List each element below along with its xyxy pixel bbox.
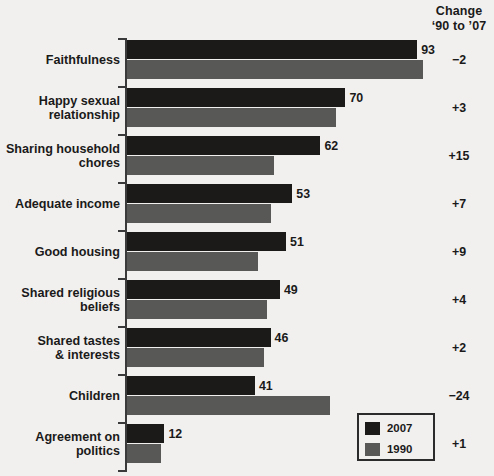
category-label-line: Faithfulness [46,53,120,68]
change-value: +15 [424,132,494,180]
change-value: −2 [424,36,494,84]
category-label-line: Shared religious [21,286,120,301]
category-label: Adequate income [0,180,120,228]
category-label-line: Shared tastes [37,334,120,349]
category-label-line: chores [6,156,120,171]
bar-value-label: 62 [324,137,338,155]
bar-value-label: 49 [284,281,298,299]
bar-group [127,180,439,228]
bar-2007 [127,376,255,395]
bar-group [127,84,439,132]
bar-1990 [127,60,423,79]
change-value: +9 [424,228,494,276]
bar-value-label: 46 [275,329,289,347]
bar-chart: Change ‘90 to ’07 Faithfulness93−2Happy … [0,0,494,476]
change-value: +3 [424,84,494,132]
change-header-line2: ‘90 to ’07 [424,19,494,34]
legend-swatch-2007-icon [365,422,380,435]
change-value: +7 [424,180,494,228]
bar-row: Shared tastes& interests46+2 [0,324,494,372]
bar-2007 [127,328,271,347]
legend-item-2007: 2007 [365,419,433,438]
category-label: Happy sexualrelationship [0,84,120,132]
bar-1990 [127,444,161,463]
change-value: +2 [424,324,494,372]
category-label-line: Children [69,389,120,404]
category-label: Shared religiousbeliefs [0,276,120,324]
bar-value-label: 51 [290,233,304,251]
bar-group [127,132,439,180]
bar-row: Shared religiousbeliefs49+4 [0,276,494,324]
chart-legend: 2007 1990 [357,413,435,461]
bar-2007 [127,280,280,299]
bar-value-label: 53 [296,185,310,203]
bar-1990 [127,396,330,415]
bar-group [127,228,439,276]
category-label-line: relationship [39,108,120,123]
change-column-header: Change ‘90 to ’07 [424,4,494,34]
bar-1990 [127,300,267,319]
change-value: +4 [424,276,494,324]
category-label: Agreement onpolitics [0,420,120,468]
legend-item-1990: 1990 [365,440,433,459]
category-label: Shared tastes& interests [0,324,120,372]
bar-2007 [127,232,286,251]
bar-2007 [127,424,164,443]
bar-value-label: 12 [168,425,182,443]
category-label: Children [0,372,120,420]
plot-area: Faithfulness93−2Happy sexualrelationship… [0,36,494,472]
category-label-line: Agreement on [35,430,120,445]
bar-row: Good housing51+9 [0,228,494,276]
bar-1990 [127,156,274,175]
bar-2007 [127,40,417,59]
bar-value-label: 41 [259,377,273,395]
bar-value-label: 70 [349,89,363,107]
axis-tick [118,470,127,472]
bar-1990 [127,252,258,271]
legend-label-2007: 2007 [387,422,412,435]
category-label: Faithfulness [0,36,120,84]
bar-group [127,36,439,84]
bar-2007 [127,184,292,203]
category-label-line: Good housing [35,245,120,260]
category-label-line: Sharing household [6,142,120,157]
legend-swatch-1990-icon [365,443,380,456]
bar-row: Adequate income53+7 [0,180,494,228]
legend-label-1990: 1990 [387,443,412,456]
bar-2007 [127,136,320,155]
category-label-line: beliefs [21,300,120,315]
bar-2007 [127,88,345,107]
bar-1990 [127,204,271,223]
category-label-line: Happy sexual [39,94,120,109]
category-label-line: Adequate income [15,197,120,212]
category-label-line: politics [35,444,120,459]
category-label: Good housing [0,228,120,276]
change-header-line1: Change [424,4,494,19]
bar-row: Happy sexualrelationship70+3 [0,84,494,132]
bar-row: Faithfulness93−2 [0,36,494,84]
bar-1990 [127,108,336,127]
bar-row: Sharing householdchores62+15 [0,132,494,180]
category-label-line: & interests [37,348,120,363]
category-label: Sharing householdchores [0,132,120,180]
bar-1990 [127,348,264,367]
